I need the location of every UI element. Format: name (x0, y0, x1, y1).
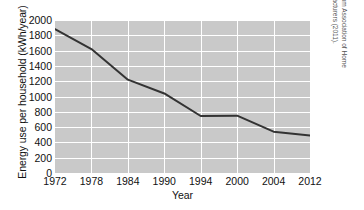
x-axis-tick-labels: 19721978198419901994200020042012 (55, 175, 310, 189)
source-note: Based on data from Association of Home A… (324, 0, 348, 110)
y-axis-tick-label: 1000 (18, 92, 52, 102)
data-series-layer (55, 20, 310, 173)
y-axis-tick-label: 400 (18, 137, 52, 147)
series-polyline (55, 29, 310, 135)
energy-use-series-line (55, 20, 310, 173)
y-axis-tick-labels: 0200400600800100012001400160018002000 (18, 18, 52, 173)
energy-use-line-chart: Energy use per household (kWh/year) 0200… (0, 0, 364, 210)
y-axis-tick-label: 1200 (18, 76, 52, 86)
y-axis-tick-label: 1400 (18, 61, 52, 71)
y-axis-tick-label: 1600 (18, 46, 52, 56)
x-axis-title: Year (55, 189, 310, 201)
y-axis-tick-label: 2000 (18, 15, 52, 25)
y-axis-tick-label: 1800 (18, 30, 52, 40)
plot-area (55, 20, 310, 173)
source-note-line-1: Based on data from Association of Home (340, 0, 349, 110)
y-axis-tick-label: 200 (18, 153, 52, 163)
y-axis-tick-label: 600 (18, 122, 52, 132)
x-axis-tick-label: 2012 (287, 175, 333, 187)
source-note-line-2: Appliance Manufacturers (2011). (331, 0, 340, 110)
y-axis-tick-label: 800 (18, 107, 52, 117)
